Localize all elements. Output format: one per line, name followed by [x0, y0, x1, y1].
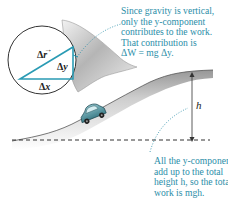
height-dimension [190, 72, 195, 142]
annotation-bottom-line: All the y-components [154, 156, 228, 167]
delta-x-label: Δx [39, 81, 50, 92]
annotation-bottom-line: work is mgh. [154, 188, 228, 199]
leader-bottom [150, 108, 188, 152]
annotation-bottom: All the y-components add up to the total… [154, 156, 228, 198]
annotation-top-line: ΔW = mg Δy. [121, 48, 228, 59]
delta-y-label: Δy [57, 61, 68, 72]
annotation-top: Since gravity is vertical, only the y-co… [121, 6, 228, 59]
svg-text:→: → [44, 45, 52, 54]
annotation-top-line: Since gravity is vertical, [121, 6, 228, 17]
height-label: h [196, 99, 202, 111]
